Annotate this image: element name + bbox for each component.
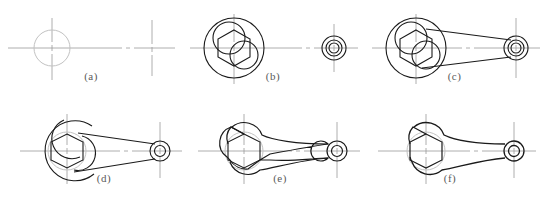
panel-d-label: (d) (34, 172, 174, 184)
handle-tangent-upper (78, 133, 155, 144)
panel-f-label: (f) (380, 172, 520, 184)
panel-e-label: (e) (210, 172, 350, 184)
panel-a: (a) (0, 2, 182, 98)
handle-tangent-upper (426, 29, 511, 40)
panel-c-label: (c) (364, 70, 545, 82)
panel-a-drawing (0, 2, 182, 98)
panel-e: (e) (192, 100, 374, 196)
panel-b-label: (b) (182, 70, 364, 82)
panel-b-drawing (182, 2, 364, 98)
handle-upper-edge (232, 123, 328, 144)
panel-b: (b) (182, 2, 364, 98)
figure-sheet: (a) (0, 0, 545, 198)
handle-tangent-lower (74, 159, 155, 172)
handle-tangent-lower (422, 57, 511, 68)
panel-a-label: (a) (0, 70, 182, 82)
panel-f: (f) (374, 100, 545, 196)
panel-c: (c) (364, 2, 545, 98)
handle-upper-edge (414, 123, 505, 144)
panel-c-drawing (364, 2, 545, 98)
panel-d: (d) (12, 100, 194, 196)
jaw-arc-lower (74, 136, 95, 170)
